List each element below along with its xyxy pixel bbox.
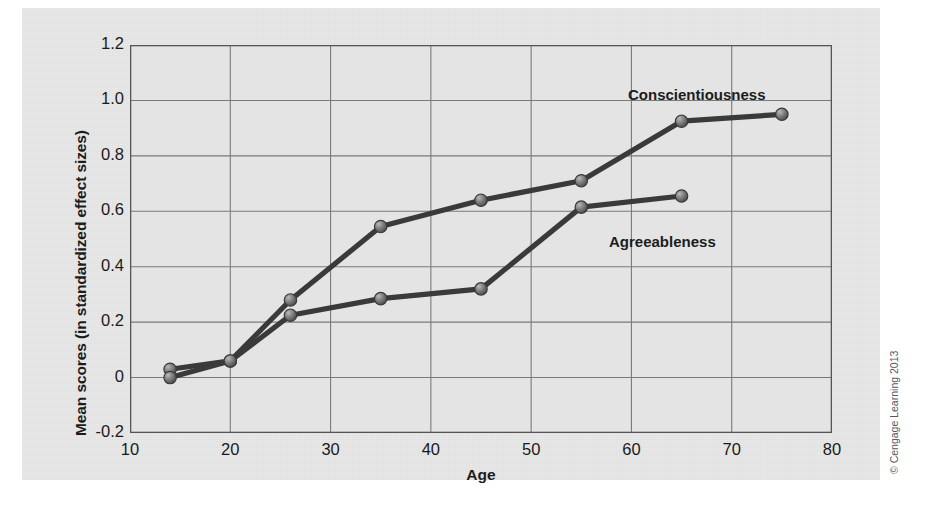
x-tick-label: 20 (221, 440, 239, 459)
figure-panel: Mean scores (in standardized effect size… (22, 8, 880, 480)
data-point (475, 194, 487, 206)
x-tick-label: 60 (622, 440, 640, 459)
data-point (164, 371, 176, 383)
y-tick-label: 1.2 (101, 34, 124, 53)
y-tick-label: 0 (115, 367, 124, 386)
copyright-credit: © Cengage Learning 2013 (888, 351, 900, 474)
plot-background (130, 45, 832, 433)
x-tick-label: 40 (422, 440, 440, 459)
data-point (475, 283, 487, 295)
data-point (224, 355, 236, 367)
x-axis-tick-labels: 1020304050607080 (130, 440, 832, 464)
y-axis-tick-labels: 1.21.00.80.60.40.20-0.2 (84, 45, 124, 433)
data-point (675, 190, 687, 202)
chart-svg (130, 45, 832, 433)
y-tick-label: 0.6 (101, 200, 124, 219)
data-point (375, 220, 387, 232)
y-tick-label: 0.2 (101, 311, 124, 330)
series-label-conscientiousness: Conscientiousness (628, 86, 766, 103)
x-tick-label: 70 (723, 440, 741, 459)
data-point (284, 309, 296, 321)
x-axis-label: Age (130, 466, 832, 484)
data-point (284, 294, 296, 306)
x-tick-label: 50 (522, 440, 540, 459)
plot-area (130, 45, 832, 433)
data-point (575, 201, 587, 213)
data-point (776, 108, 788, 120)
x-tick-label: 30 (321, 440, 339, 459)
y-tick-label: 0.4 (101, 256, 124, 275)
series-label-agreeableness: Agreeableness (609, 233, 716, 250)
data-point (675, 115, 687, 127)
y-tick-label: 1.0 (101, 89, 124, 108)
data-point (575, 175, 587, 187)
y-tick-label: 0.8 (101, 145, 124, 164)
x-tick-label: 80 (823, 440, 841, 459)
data-point (375, 292, 387, 304)
x-tick-label: 10 (121, 440, 139, 459)
y-tick-label: -0.2 (96, 422, 124, 441)
